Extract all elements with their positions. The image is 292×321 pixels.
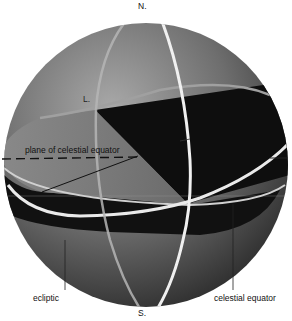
ecliptic-label: ecliptic — [33, 294, 59, 303]
point-a-label: A. — [196, 216, 204, 225]
celestial-sphere-diagram — [0, 0, 292, 321]
point-l-label: L. — [83, 95, 90, 104]
celestial-equator-label: celestial equator — [214, 294, 276, 303]
north-pole-label: N. — [138, 2, 147, 11]
south-pole-label: S. — [138, 309, 146, 318]
plane-label: plane of celestial equator — [25, 146, 120, 155]
